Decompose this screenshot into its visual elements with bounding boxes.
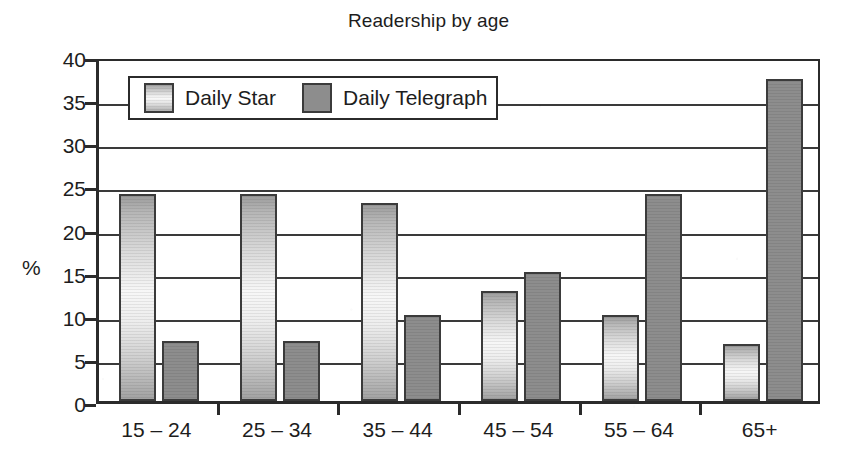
y-tick-label: 5 xyxy=(44,350,86,371)
legend-swatch-daily-star xyxy=(144,83,174,113)
bar-daily-star xyxy=(361,203,398,401)
legend-swatch-daily-telegraph xyxy=(302,83,332,113)
x-tick-mark xyxy=(217,404,220,415)
legend-label-daily-telegraph: Daily Telegraph xyxy=(343,86,487,110)
bar-daily-telegraph xyxy=(404,315,441,401)
y-axis-tick-labels: 0510152025303540 xyxy=(34,59,86,404)
bar-daily-telegraph xyxy=(766,79,803,401)
y-tick-mark xyxy=(85,145,96,148)
bar-daily-star xyxy=(723,344,760,401)
x-tick-label: 65+ xyxy=(742,418,778,441)
bar-daily-telegraph xyxy=(162,341,199,401)
y-tick-label: 20 xyxy=(44,221,86,242)
x-tick-label: 25 – 34 xyxy=(242,418,312,441)
bar-texture xyxy=(647,196,680,399)
bar-daily-telegraph xyxy=(645,194,682,401)
bar-texture xyxy=(768,81,801,399)
legend-entry-daily-star: Daily Star xyxy=(144,83,276,113)
bar-daily-star xyxy=(602,315,639,401)
y-tick-label: 40 xyxy=(44,49,86,70)
x-tick-label: 55 – 64 xyxy=(604,418,674,441)
bar-texture xyxy=(406,317,439,399)
chart-figure: Readership by age % 0510152025303540 15 … xyxy=(0,0,857,462)
y-tick-mark xyxy=(85,59,96,62)
x-axis-tick-labels: 15 – 2425 – 3435 – 4445 – 5455 – 6465+ xyxy=(96,418,820,452)
y-tick-label: 0 xyxy=(44,394,86,415)
gridline xyxy=(99,147,818,149)
x-tick-label: 45 – 54 xyxy=(483,418,553,441)
bar-texture xyxy=(483,293,516,399)
y-tick-label: 15 xyxy=(44,264,86,285)
y-tick-mark xyxy=(85,102,96,105)
y-tick-label: 25 xyxy=(44,178,86,199)
legend-label-daily-star: Daily Star xyxy=(185,86,276,110)
x-tick-mark xyxy=(579,404,582,415)
y-tick-label: 10 xyxy=(44,307,86,328)
x-tick-label: 15 – 24 xyxy=(121,418,191,441)
bar-texture xyxy=(242,196,275,399)
x-tick-mark xyxy=(699,404,702,415)
bar-texture xyxy=(164,343,197,399)
y-tick-mark xyxy=(85,318,96,321)
bar-daily-telegraph xyxy=(524,272,561,401)
x-tick-mark xyxy=(337,404,340,415)
y-tick-label: 35 xyxy=(44,92,86,113)
bar-texture xyxy=(121,196,154,399)
y-tick-mark xyxy=(85,275,96,278)
gridline xyxy=(99,363,818,365)
bar-texture xyxy=(604,317,637,399)
gridline xyxy=(99,190,818,192)
y-tick-mark xyxy=(85,232,96,235)
gridline xyxy=(99,320,818,322)
bar-daily-star xyxy=(240,194,277,401)
bar-daily-star xyxy=(119,194,156,401)
y-tick-label: 30 xyxy=(44,135,86,156)
bar-daily-telegraph xyxy=(283,341,320,401)
gridline xyxy=(99,277,818,279)
x-tick-label: 35 – 44 xyxy=(363,418,433,441)
chart-title: Readership by age xyxy=(0,10,857,32)
bar-daily-star xyxy=(481,291,518,401)
bar-texture xyxy=(285,343,318,399)
y-tick-mark xyxy=(85,188,96,191)
chart-legend: Daily Star Daily Telegraph xyxy=(128,76,498,120)
gridline xyxy=(99,234,818,236)
legend-entry-daily-telegraph: Daily Telegraph xyxy=(302,83,487,113)
bar-texture xyxy=(363,205,396,399)
bar-texture xyxy=(725,346,758,399)
x-tick-mark xyxy=(458,404,461,415)
bar-texture xyxy=(526,274,559,399)
y-tick-mark xyxy=(85,404,96,407)
y-tick-mark xyxy=(85,361,96,364)
